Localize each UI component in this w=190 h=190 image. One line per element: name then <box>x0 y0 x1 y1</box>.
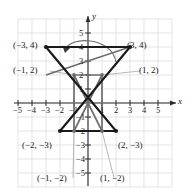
y-tick-2: 2 <box>79 71 83 80</box>
label-leader-lines <box>50 71 140 178</box>
point-label-3-4: (3, 4) <box>127 41 147 50</box>
y-tick-5: 5 <box>79 29 83 38</box>
point-label-1-2: (1, 2) <box>139 66 159 75</box>
x-tick-1: 1 <box>100 106 104 115</box>
y-tick-3: 3 <box>79 57 83 66</box>
x-axis-label: x <box>178 97 182 106</box>
point-label-neg3-4: (−3, 4) <box>13 41 38 50</box>
y-tick-4: 4 <box>79 43 83 52</box>
y-tick-1: 1 <box>79 85 83 94</box>
point-label-neg1-neg2: (−1, −2) <box>37 174 67 183</box>
x-tick-neg2: −2 <box>55 106 64 115</box>
y-tick-neg1: −1 <box>76 113 85 122</box>
point-label-neg2-neg3: (−2, −3) <box>22 141 52 150</box>
y-tick-neg4: −4 <box>76 155 85 164</box>
coordinate-plane-figure: x y −5 −4 −3 −2 −1 1 2 3 4 5 5 4 3 2 1 −… <box>0 0 190 190</box>
y-axis-label: y <box>92 12 96 21</box>
y-tick-neg2: −2 <box>76 127 85 136</box>
point-label-neg1-2: (−1, 2) <box>13 66 38 75</box>
point-label-1-neg2: (1, −2) <box>100 174 125 183</box>
coordinate-plot-svg <box>0 0 190 190</box>
rotation-arc-icon <box>62 41 116 62</box>
y-tick-neg3: −3 <box>76 141 85 150</box>
x-tick-4: 4 <box>142 106 146 115</box>
x-tick-5: 5 <box>156 106 160 115</box>
x-tick-neg3: −3 <box>41 106 50 115</box>
point-label-2-neg3: (2, −3) <box>118 141 143 150</box>
x-tick-neg4: −4 <box>27 106 36 115</box>
x-axis-arrow <box>170 101 176 106</box>
x-tick-3: 3 <box>128 106 132 115</box>
y-tick-neg5: −5 <box>76 169 85 178</box>
x-tick-2: 2 <box>114 106 118 115</box>
x-tick-neg5: −5 <box>13 106 22 115</box>
